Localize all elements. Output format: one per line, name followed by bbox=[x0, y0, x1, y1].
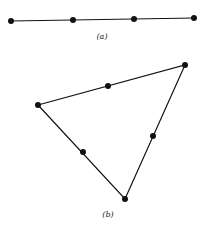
figure-a-node-4 bbox=[191, 15, 197, 21]
figure-b-vertex-bottom bbox=[122, 196, 128, 202]
figure-b-midpoint-right bbox=[150, 133, 156, 139]
figure-a-path-graph bbox=[8, 15, 197, 24]
figure-a-node-2 bbox=[70, 17, 76, 23]
figure-b-vertex-top-right bbox=[182, 62, 188, 68]
figure-a-node-3 bbox=[131, 16, 137, 22]
figure-b-caption: (b) bbox=[102, 210, 113, 219]
figure-b-midpoint-left bbox=[80, 149, 86, 155]
figure-a-caption: (a) bbox=[96, 32, 107, 41]
figure-b-triangle-graph bbox=[35, 62, 188, 202]
figure-b-midpoint-top bbox=[105, 83, 111, 89]
figure-b-triangle bbox=[38, 65, 185, 199]
figure-a-line bbox=[11, 18, 194, 21]
figure-b-vertex-left bbox=[35, 102, 41, 108]
figure-a-node-1 bbox=[8, 18, 14, 24]
